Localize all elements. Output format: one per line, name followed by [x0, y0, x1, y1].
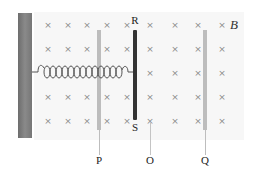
field-label-b: B	[230, 18, 238, 31]
rod-label-r: R	[131, 15, 138, 26]
spring-icon	[0, 0, 253, 178]
rail-label-q: Q	[201, 155, 209, 166]
rail-label-p: P	[96, 155, 102, 166]
rail-label-o: O	[146, 155, 154, 166]
rod-rs[interactable]	[133, 30, 137, 120]
rod-label-s: S	[132, 122, 138, 133]
